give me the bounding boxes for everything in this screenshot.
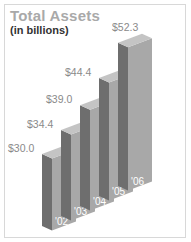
value-label: $30.0 <box>8 142 34 154</box>
bar-06: '06$52.3 <box>112 21 152 191</box>
bar-chart: '02$30.0'03$34.4'04$39.0'05$44.4'06$52.3 <box>0 0 191 242</box>
year-label: '06 <box>131 176 144 187</box>
value-label: $34.4 <box>27 118 53 130</box>
value-label: $44.4 <box>65 66 91 78</box>
value-label: $39.0 <box>46 93 72 105</box>
value-label: $52.3 <box>112 21 138 33</box>
